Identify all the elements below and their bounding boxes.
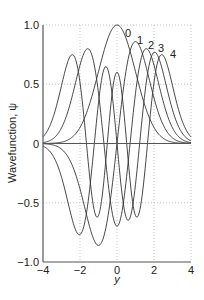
y-tick-label: 0 (33, 138, 39, 150)
x-tick-label: 4 (188, 264, 194, 276)
y-tick-label: −0.5 (17, 197, 39, 209)
x-tick-label: 2 (151, 264, 157, 276)
series-label-1: 1 (137, 34, 143, 46)
series-label-0: 0 (125, 27, 131, 39)
y-axis-label: Wavefunction, ψ (6, 103, 18, 183)
y-tick-labels: 1.00.50−0.5−1.0 (17, 19, 39, 268)
wavefunction-chart: 1.00.50−0.5−1.0 −4−2024 01234 Wavefuncti… (0, 0, 204, 300)
y-tick-label: 0.5 (24, 78, 39, 90)
chart-svg: 1.00.50−0.5−1.0 −4−2024 01234 Wavefuncti… (0, 0, 204, 300)
series-label-2: 2 (148, 39, 154, 51)
x-tick-label: −2 (74, 264, 87, 276)
series-label-3: 3 (158, 42, 164, 54)
curve-psi-0 (43, 25, 191, 143)
y-tick-label: 1.0 (24, 19, 39, 31)
x-tick-label: −4 (37, 264, 50, 276)
series-label-4: 4 (170, 48, 176, 60)
